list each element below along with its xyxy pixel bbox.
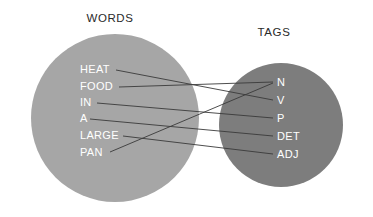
word-item-food: FOOD [80, 80, 113, 92]
tag-item-p: P [277, 112, 285, 124]
bipartite-mapping-diagram: WORDSTAGSHEATFOODINALARGEPANNVPDETADJ [0, 0, 373, 217]
words-set-title: WORDS [86, 12, 133, 24]
tag-item-n: N [277, 76, 285, 88]
tag-item-adj: ADJ [277, 148, 299, 160]
diagram-canvas: WORDSTAGSHEATFOODINALARGEPANNVPDETADJ [0, 0, 373, 217]
word-item-pan: PAN [80, 146, 103, 158]
words-set-circle [31, 34, 199, 202]
tag-item-det: DET [277, 130, 300, 142]
tags-set-title: TAGS [258, 26, 291, 38]
word-item-large: LARGE [80, 129, 119, 141]
word-item-in: IN [80, 96, 92, 108]
tag-item-v: V [277, 94, 285, 106]
word-item-a: A [80, 112, 88, 124]
word-item-heat: HEAT [80, 63, 110, 75]
